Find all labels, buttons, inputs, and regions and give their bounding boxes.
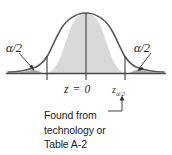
normal-curve-figure: α/2 α/2 z = 0 zα/2 Found from technology… — [0, 0, 172, 155]
right-alpha-leader-line — [138, 53, 151, 70]
source-annotation: Found from technology or Table A-2 — [44, 108, 144, 152]
source-annotation-line-1: Found from — [44, 108, 144, 123]
source-annotation-line-3: Table A-2 — [44, 137, 144, 152]
critical-value-label: zα/2 — [112, 84, 125, 98]
alpha-over-two-label-left: α/2 — [6, 41, 22, 55]
alpha-over-two-label-right: α/2 — [134, 41, 150, 55]
z-equals-zero-label: z = 0 — [64, 83, 91, 96]
critical-value-subscript: α/2 — [116, 90, 125, 98]
source-annotation-line-2: technology or — [44, 123, 144, 138]
